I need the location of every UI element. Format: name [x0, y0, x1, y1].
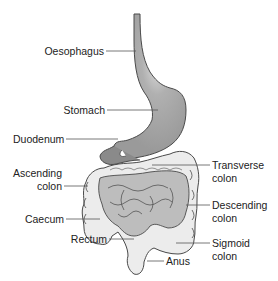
label-descending-colon-line1: Descending — [212, 199, 267, 212]
label-descending-colon-line2: colon — [212, 212, 237, 225]
label-duodenum: Duodenum — [13, 133, 64, 146]
label-anus: Anus — [166, 255, 190, 268]
label-ascending-colon-line2: colon — [0, 180, 62, 193]
label-stomach: Stomach — [50, 104, 105, 117]
label-rectum: Rectum — [30, 233, 107, 246]
label-sigmoid-colon-line2: colon — [212, 250, 237, 263]
label-oesophagus: Oesophagus — [36, 45, 104, 58]
label-transverse-colon-line1: Transverse — [212, 159, 264, 172]
digestive-system-diagram: Oesophagus Stomach Duodenum Ascending co… — [0, 0, 278, 281]
stomach-shape — [100, 14, 186, 165]
label-sigmoid-colon-line1: Sigmoid — [212, 237, 250, 250]
label-ascending-colon-line1: Ascending — [0, 167, 62, 180]
label-caecum: Caecum — [0, 213, 64, 226]
label-transverse-colon-line2: colon — [212, 172, 237, 185]
